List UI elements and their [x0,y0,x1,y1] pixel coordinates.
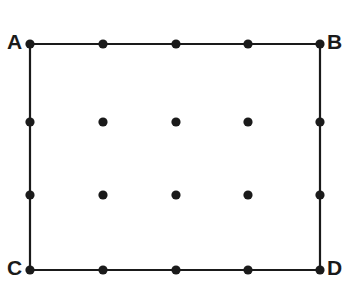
vertex-label-a: A [7,31,22,52]
vertex-label-d: D [327,257,342,278]
rectangle-dot-grid-drawing [0,0,348,292]
interior-dot [171,190,180,199]
vertex-dot-c [25,265,34,274]
geometry-figure-canvas: A B C D [0,0,348,292]
edge-dot [171,39,180,48]
vertex-label-c: C [7,257,22,278]
edge-dot [25,190,34,199]
vertex-dot-b [315,39,324,48]
grid-dots [25,39,324,274]
edge-dot [243,265,252,274]
rectangle-edges [30,44,320,270]
vertex-dot-a [25,39,34,48]
interior-dot [171,117,180,126]
edge-dot [315,117,324,126]
interior-dot [243,190,252,199]
interior-dot [98,117,107,126]
edge-dot [98,265,107,274]
edge-dot [315,265,324,274]
edge-dot [25,117,34,126]
edge-dot [243,39,252,48]
edge-dot [98,39,107,48]
edge-dot [315,190,324,199]
interior-dot [98,190,107,199]
vertex-label-b: B [327,31,342,52]
interior-dot [243,117,252,126]
edge-dot [171,265,180,274]
